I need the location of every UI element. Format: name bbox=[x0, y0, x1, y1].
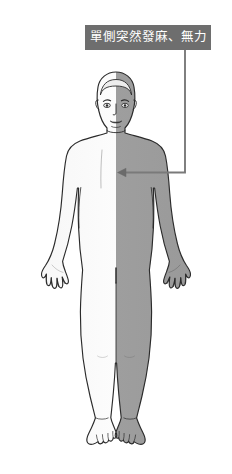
human-body-illustration bbox=[0, 0, 232, 474]
callout-label-text: 單側突然發麻、無力 bbox=[90, 31, 207, 44]
left-pupil bbox=[106, 104, 109, 107]
body-left-half-unaffected bbox=[0, 0, 116, 474]
callout-label-box: 單側突然發麻、無力 bbox=[85, 25, 211, 50]
stroke-symptom-figure: 單側突然發麻、無力 bbox=[0, 0, 232, 474]
body-right-half-affected bbox=[116, 0, 232, 474]
right-pupil bbox=[124, 104, 127, 107]
